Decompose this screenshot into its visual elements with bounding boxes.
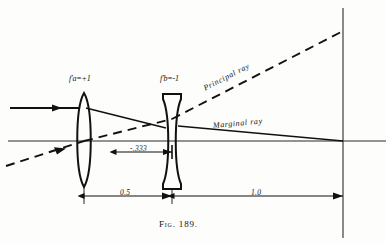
principal-ray-after-lens-b [172,31,343,119]
dim-10-right-arrow [333,193,343,200]
figure-container: f′a=+1 f′b=-1 Principal ray Marginal ray… [0,0,386,243]
principal-ray-between-lenses [84,119,172,141]
marginal-ray-after-lens-b [178,126,343,141]
marginal-ray-between-lenses [86,108,166,128]
dim-05-right-arrow [162,193,172,200]
principal-ray-incoming [6,141,84,166]
optical-diagram [0,0,386,243]
marginal-ray-incoming-arrow [52,105,62,112]
